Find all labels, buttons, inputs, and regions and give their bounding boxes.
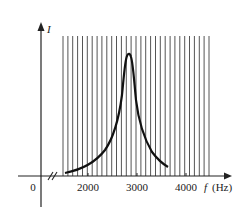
- origin-label: 0: [30, 181, 36, 193]
- x-axis-label-f: f: [204, 181, 209, 193]
- x-axis-arrow-icon: [224, 173, 232, 180]
- y-axis-arrow-icon: [38, 22, 45, 31]
- resonance-chart: I 0 2000 3000 4000 f (Hz): [0, 0, 241, 207]
- tick-label-3000: 3000: [126, 181, 149, 193]
- tick-label-2000: 2000: [77, 181, 100, 193]
- x-axis-unit: (Hz): [212, 181, 232, 194]
- tick-label-4000: 4000: [175, 181, 198, 193]
- y-axis-label: I: [46, 23, 52, 35]
